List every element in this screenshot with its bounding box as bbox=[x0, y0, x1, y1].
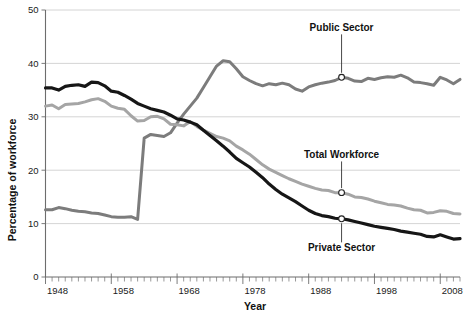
x-axis-tick-labels: 1948195819681978198819982008 bbox=[47, 285, 463, 296]
y-tick-label-30: 30 bbox=[28, 111, 39, 122]
series-line-total-workforce bbox=[46, 99, 461, 214]
y-tick-label-10: 10 bbox=[28, 218, 39, 229]
y-tick-label-50: 50 bbox=[28, 4, 39, 15]
annotation-label-public-sector: Public Sector bbox=[310, 22, 374, 33]
series-line-public-sector bbox=[46, 61, 461, 220]
x-axis-minor-ticks bbox=[52, 277, 460, 282]
annotation-marker-public-sector bbox=[339, 74, 345, 80]
line-chart: 01020304050 1948195819681978198819982008… bbox=[0, 0, 466, 319]
y-tick-label-0: 0 bbox=[33, 271, 38, 282]
annotation-label-total-workforce: Total Workforce bbox=[304, 149, 380, 160]
x-tick-label-1968: 1968 bbox=[179, 285, 200, 296]
chart-container: 01020304050 1948195819681978198819982008… bbox=[0, 0, 466, 319]
annotation-marker-private-sector bbox=[339, 216, 345, 222]
y-axis-tick-labels: 01020304050 bbox=[28, 4, 46, 282]
series-annotations: Public SectorTotal WorkforcePrivate Sect… bbox=[304, 22, 380, 253]
x-tick-label-2008: 2008 bbox=[442, 285, 463, 296]
x-tick-label-1988: 1988 bbox=[310, 285, 331, 296]
y-tick-label-20: 20 bbox=[28, 165, 39, 176]
axis-lines bbox=[46, 10, 461, 277]
x-axis-title: Year bbox=[244, 300, 266, 312]
y-tick-label-40: 40 bbox=[28, 58, 39, 69]
x-tick-label-1998: 1998 bbox=[376, 285, 397, 296]
y-axis-title: Percentage of workforce bbox=[6, 119, 18, 242]
gridlines bbox=[46, 10, 461, 224]
data-series-group bbox=[46, 61, 461, 239]
x-tick-label-1958: 1958 bbox=[113, 285, 134, 296]
x-tick-label-1948: 1948 bbox=[47, 285, 68, 296]
annotation-label-private-sector: Private Sector bbox=[308, 242, 375, 253]
x-tick-label-1978: 1978 bbox=[244, 285, 265, 296]
annotation-marker-total-workforce bbox=[339, 190, 345, 196]
